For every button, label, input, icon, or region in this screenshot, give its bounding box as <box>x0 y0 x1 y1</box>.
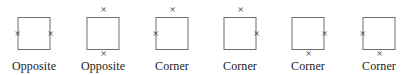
item-label-2: Opposite <box>68 59 138 73</box>
x-marker-left-1: × <box>12 28 23 39</box>
x-marker-right-4: × <box>251 28 262 39</box>
item-label-3: Corner <box>138 59 206 73</box>
x-marker-right-5: × <box>319 28 330 39</box>
item-label-6: Corner <box>342 59 416 73</box>
diagram-item-6: × × Corner <box>342 0 416 75</box>
item-label-4: Corner <box>206 59 274 73</box>
x-marker-top-2: × <box>98 4 109 15</box>
diagram-canvas: × × Opposite × × Opposite × × Corner × ×… <box>0 0 416 75</box>
x-marker-bottom-2: × <box>98 48 109 59</box>
diagram-item-1: × × Opposite <box>0 0 68 75</box>
square-outline-2 <box>87 17 120 50</box>
diagram-item-5: × × Corner <box>274 0 342 75</box>
x-marker-right-1: × <box>45 28 56 39</box>
x-marker-left-3: × <box>150 28 161 39</box>
diagram-item-3: × × Corner <box>138 0 206 75</box>
item-label-1: Opposite <box>0 59 68 73</box>
x-marker-left-6: × <box>357 28 368 39</box>
x-marker-top-3: × <box>167 4 178 15</box>
x-marker-top-4: × <box>235 4 246 15</box>
diagram-item-2: × × Opposite <box>68 0 138 75</box>
x-marker-bottom-5: × <box>303 48 314 59</box>
x-marker-bottom-6: × <box>374 48 385 59</box>
diagram-item-4: × × Corner <box>206 0 274 75</box>
item-label-5: Corner <box>274 59 342 73</box>
